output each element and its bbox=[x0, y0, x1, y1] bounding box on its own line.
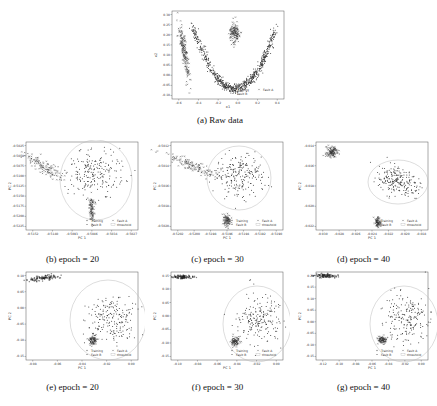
scatter-plot-b: -0.5152-0.5140-0.5093-0.5046-0.5034-0.50… bbox=[0, 140, 145, 250]
x-tick-label: -0.5034 bbox=[106, 232, 118, 236]
legend-label: Fault B bbox=[236, 353, 246, 357]
y-tick-label: 0.15 bbox=[162, 274, 169, 278]
x-axis-label: PC 1 bbox=[368, 366, 376, 370]
x-tick-label: -0.02 bbox=[103, 362, 111, 366]
x-tick-label: -0.026 bbox=[351, 232, 361, 236]
legend-label: Fault A bbox=[263, 88, 274, 92]
scatter-plot-e: -0.08-0.06-0.04-0.020.000.100.050.00-0.0… bbox=[0, 270, 145, 378]
x-tick-label: -0.08 bbox=[29, 362, 37, 366]
x-tick-label: -0.030 bbox=[318, 232, 328, 236]
x-tick-label: -0.5140 bbox=[47, 232, 59, 236]
legend-label: Fault B bbox=[236, 223, 246, 227]
y-tick-label: 0.10 bbox=[163, 53, 170, 57]
y-tick-label: -0.05 bbox=[162, 83, 170, 87]
x-tick-label: -0.04 bbox=[233, 362, 241, 366]
y-tick-label: -0.15 bbox=[306, 354, 314, 358]
y-tick-label: -0.5225 bbox=[12, 224, 24, 228]
x-tick-label: 0.00 bbox=[273, 362, 280, 366]
x-tick-label: -0.5093 bbox=[66, 232, 78, 236]
x-tick-label: 0.00 bbox=[418, 362, 425, 366]
y-tick-label: -0.15 bbox=[16, 354, 24, 358]
y-tick-label: -0.10 bbox=[162, 93, 170, 97]
caption-d: (d) epoch = 40 bbox=[290, 254, 437, 264]
x-axis-label: PC 1 bbox=[78, 236, 86, 240]
x-axis-label: PC 1 bbox=[368, 236, 376, 240]
caption-b: (b) epoch = 20 bbox=[0, 254, 145, 264]
scatter-plot-d: -0.030-0.028-0.026-0.024-0.022-0.020-0.0… bbox=[290, 140, 437, 250]
y-tick-label: -0.5125 bbox=[12, 184, 24, 188]
legend-label: threshold bbox=[407, 353, 421, 357]
caption-a: (a) Raw data bbox=[150, 115, 290, 125]
x-tick-label: -0.5198 bbox=[205, 232, 217, 236]
y-tick-label: -0.018 bbox=[304, 184, 314, 188]
panel-e-epoch-20: -0.08-0.06-0.04-0.020.000.100.050.00-0.0… bbox=[0, 270, 145, 406]
y-axis-label: x2 bbox=[154, 53, 158, 57]
x-tick-label: -0.5194 bbox=[238, 232, 250, 236]
x-tick-label: -0.08 bbox=[194, 362, 202, 366]
y-tick-label: -0.5075 bbox=[12, 164, 24, 168]
x-tick-label: -0.018 bbox=[416, 232, 426, 236]
y-axis-label: PC 2 bbox=[153, 182, 157, 190]
y-tick-label: -0.5200 bbox=[12, 214, 24, 218]
x-axis-label: PC 1 bbox=[223, 236, 231, 240]
x-tick-label: -0.10 bbox=[335, 362, 343, 366]
y-tick-label: -0.5012 bbox=[157, 144, 169, 148]
y-tick-label: 0.15 bbox=[307, 285, 314, 289]
y-tick-label: -0.5150 bbox=[12, 194, 24, 198]
y-tick-label: 0.10 bbox=[17, 274, 24, 278]
y-tick-label: -0.15 bbox=[161, 354, 169, 358]
y-tick-label: 0.05 bbox=[307, 308, 314, 312]
x-tick-label: -0.10 bbox=[174, 362, 182, 366]
y-tick-label: 0.10 bbox=[307, 297, 314, 301]
panel-raw-data: -0.6-0.4-0.20.00.20.40.300.250.200.150.1… bbox=[150, 5, 290, 125]
x-tick-label: -0.5202 bbox=[172, 232, 184, 236]
legend-label: threshold bbox=[117, 223, 131, 227]
x-tick-label: 0.0 bbox=[235, 101, 240, 105]
y-tick-label: -0.020 bbox=[304, 204, 314, 208]
x-axis-label: x1 bbox=[226, 105, 230, 109]
y-tick-label: 0.05 bbox=[163, 63, 170, 67]
y-tick-label: 0.00 bbox=[307, 320, 314, 324]
legend-label: threshold bbox=[262, 353, 276, 357]
y-tick-label: 0.00 bbox=[163, 73, 170, 77]
y-tick-label: 0.00 bbox=[17, 306, 24, 310]
x-tick-label: -0.06 bbox=[53, 362, 61, 366]
y-tick-label: -0.05 bbox=[161, 327, 169, 331]
x-tick-label: 0.4 bbox=[275, 101, 280, 105]
y-tick-label: 0.25 bbox=[163, 23, 170, 27]
legend-label: Fault B bbox=[381, 223, 391, 227]
x-tick-label: -0.5192 bbox=[254, 232, 266, 236]
x-tick-label: -0.5152 bbox=[27, 232, 39, 236]
legend-label: Fault B bbox=[381, 353, 391, 357]
y-tick-label: 0.05 bbox=[162, 301, 169, 305]
legend-label: threshold bbox=[407, 223, 421, 227]
legend-label: Fault B bbox=[91, 353, 101, 357]
x-tick-label: 0.2 bbox=[255, 101, 260, 105]
plot-area bbox=[172, 11, 284, 99]
x-tick-label: -0.5046 bbox=[86, 232, 98, 236]
x-axis-label: PC 1 bbox=[78, 366, 86, 370]
x-tick-label: -0.04 bbox=[385, 362, 393, 366]
legend-label: Fault B bbox=[237, 92, 247, 96]
y-tick-label: -0.5100 bbox=[12, 174, 24, 178]
x-tick-label: -0.06 bbox=[213, 362, 221, 366]
caption-c: (c) epoch = 30 bbox=[145, 254, 290, 264]
y-tick-label: -0.5050 bbox=[12, 154, 24, 158]
y-axis-label: PC 2 bbox=[8, 312, 12, 320]
x-tick-label: -0.2 bbox=[215, 101, 221, 105]
x-tick-label: -0.022 bbox=[384, 232, 394, 236]
scatter-plot-c: -0.5202-0.5200-0.5198-0.5196-0.5194-0.51… bbox=[145, 140, 290, 250]
y-tick-label: -0.5014 bbox=[157, 164, 169, 168]
y-tick-label: -0.10 bbox=[161, 341, 169, 345]
y-tick-label: 0.00 bbox=[162, 314, 169, 318]
y-tick-label: 0.10 bbox=[162, 287, 169, 291]
caption-f: (f) epoch = 30 bbox=[145, 382, 290, 392]
x-tick-label: -0.5027 bbox=[125, 232, 137, 236]
y-tick-label: -0.05 bbox=[306, 331, 314, 335]
panel-b-epoch-20: -0.5152-0.5140-0.5093-0.5046-0.5034-0.50… bbox=[0, 140, 145, 275]
y-tick-label: -0.5025 bbox=[12, 144, 24, 148]
y-axis-label: PC 2 bbox=[298, 312, 302, 320]
panel-g-epoch-40: -0.12-0.10-0.08-0.06-0.04-0.020.000.200.… bbox=[290, 270, 437, 406]
y-tick-label: -0.014 bbox=[304, 144, 314, 148]
y-tick-label: -0.5175 bbox=[12, 204, 24, 208]
